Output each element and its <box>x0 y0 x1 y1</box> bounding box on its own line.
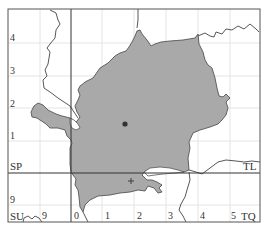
left-tick-3: 3 <box>10 65 15 76</box>
left-tick-2: 2 <box>10 98 15 109</box>
grid-square-sp-label: SP <box>10 160 22 172</box>
bottom-tick-0: 0 <box>74 210 79 221</box>
bottom-tick-3: 3 <box>168 210 173 221</box>
distribution-map: 4 3 2 1 9 9 0 1 2 3 4 5 SP TL SU TQ <box>0 0 266 230</box>
shaded-region <box>31 30 230 212</box>
bottom-tick-5: 5 <box>231 210 236 221</box>
bottom-tick-4: 4 <box>200 210 205 221</box>
left-tick-1: 1 <box>10 130 15 141</box>
left-tick-9: 9 <box>10 194 15 205</box>
map-canvas: 4 3 2 1 9 9 0 1 2 3 4 5 SP TL SU TQ <box>0 0 266 230</box>
record-dot-marker <box>122 121 127 126</box>
left-tick-4: 4 <box>10 32 15 43</box>
grid-square-su-label: SU <box>10 210 24 222</box>
bottom-tick-2: 2 <box>137 210 142 221</box>
grid-square-tq-label: TQ <box>241 210 256 222</box>
bottom-tick-1: 1 <box>105 210 110 221</box>
grid-square-tl-label: TL <box>243 160 257 172</box>
bottom-tick-9: 9 <box>42 210 47 221</box>
